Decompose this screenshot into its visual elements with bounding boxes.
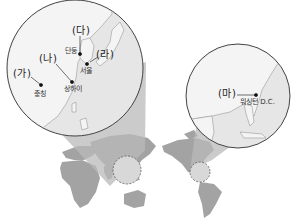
marker-label-ga: (가) [13, 69, 31, 79]
city-label-washington-dc: 워싱턴 D.C. [240, 99, 275, 106]
marker-label-ma: (마) [218, 89, 236, 99]
city-label-chongqing: 충칭 [34, 91, 46, 98]
asia-source-circle [113, 156, 141, 184]
marker-dot-ra [85, 62, 88, 65]
city-label-shanghai: 상하이 [64, 86, 82, 93]
city-label-dandong: 단둥 [65, 48, 77, 55]
city-label-seoul: 서울 [80, 68, 92, 75]
map-graphic [0, 0, 292, 224]
marker-label-da: (다) [72, 26, 90, 36]
map-figure: (가) 충칭 (나) 상하이 (다) 단둥 (라) 서울 (마) 워싱턴 D.C… [0, 0, 292, 224]
marker-label-ra: (라) [96, 50, 114, 60]
us-source-circle [190, 162, 210, 182]
marker-label-na: (나) [39, 54, 57, 64]
